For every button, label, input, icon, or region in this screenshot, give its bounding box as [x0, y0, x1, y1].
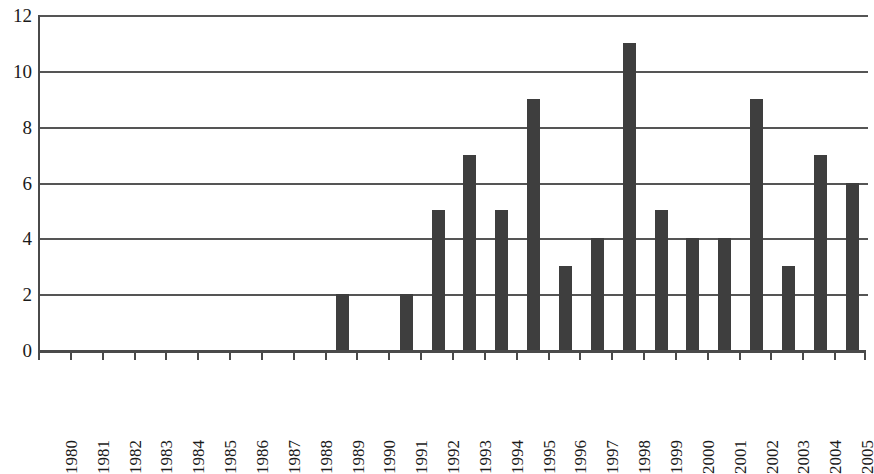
x-axis-tick-label: 2000: [700, 416, 718, 474]
x-axis-tick-label: 2004: [827, 416, 845, 474]
x-axis-tick: [388, 352, 390, 360]
x-axis-tick-label: 1991: [413, 416, 431, 474]
bar-2005: [846, 183, 859, 351]
y-axis-tick-label: 4: [2, 229, 32, 248]
x-axis-tick: [834, 352, 836, 360]
x-axis-tick-label: 1984: [190, 416, 208, 474]
x-axis-tick: [325, 352, 327, 360]
bar-1997: [591, 238, 604, 350]
x-axis-tick: [420, 352, 422, 360]
x-axis-tick: [675, 352, 677, 360]
x-axis-tick-label: 1980: [63, 416, 81, 474]
bar-1996: [559, 266, 572, 350]
x-axis-tick-label: 1987: [286, 416, 304, 474]
x-axis-tick-label: 1981: [95, 416, 113, 474]
x-axis-tick: [707, 352, 709, 360]
y-axis-tick-label: 10: [2, 61, 32, 80]
bar-2003: [782, 266, 795, 350]
x-axis-tick: [197, 352, 199, 360]
y-axis-tick-label: 12: [2, 6, 32, 25]
bars-series: [40, 15, 868, 350]
x-axis-tick-label: 1985: [222, 416, 240, 474]
x-axis-tick-label: 1992: [445, 416, 463, 474]
bar-1993: [463, 155, 476, 350]
x-axis-tick-label: 1993: [477, 416, 495, 474]
y-axis-tick-label: 6: [2, 173, 32, 192]
x-axis-tick: [484, 352, 486, 360]
y-axis-tick-label: 2: [2, 285, 32, 304]
x-axis-tick-label: 1990: [381, 416, 399, 474]
bar-1989: [336, 294, 349, 350]
x-axis-tick: [516, 352, 518, 360]
x-axis-tick-label: 2001: [732, 416, 750, 474]
x-axis-tick: [229, 352, 231, 360]
x-axis-tick: [548, 352, 550, 360]
y-axis-tick-label: 0: [2, 341, 32, 360]
x-axis-tick-label: 2002: [764, 416, 782, 474]
y-axis-tick-label: 8: [2, 117, 32, 136]
x-axis-tick-label: 1982: [127, 416, 145, 474]
bar-1992: [432, 210, 445, 350]
x-axis-tick: [643, 352, 645, 360]
x-axis-tick: [802, 352, 804, 360]
bar-1995: [527, 99, 540, 350]
x-axis-tick-label: 1994: [509, 416, 527, 474]
x-axis-tick-label: 2005: [859, 416, 874, 474]
x-axis-tick: [739, 352, 741, 360]
x-axis-tick-label: 1989: [350, 416, 368, 474]
bar-1999: [655, 210, 668, 350]
x-axis-tick: [356, 352, 358, 360]
x-axis-tick-label: 1997: [604, 416, 622, 474]
x-axis-tick-label: 1999: [668, 416, 686, 474]
x-axis-tick: [770, 352, 772, 360]
plot-area: [38, 15, 868, 350]
x-axis-ticks: [38, 352, 866, 360]
x-axis-tick-label: 1983: [158, 416, 176, 474]
bar-2002: [750, 99, 763, 350]
y-axis-tick-labels: 024681012: [0, 0, 32, 418]
x-axis-tick-labels: 1980198119821983198419851986198719881989…: [38, 360, 866, 418]
x-axis-tick-label: 1988: [318, 416, 336, 474]
x-axis-tick: [165, 352, 167, 360]
bar-1998: [623, 43, 636, 350]
x-axis-tick: [70, 352, 72, 360]
x-axis-tick-label: 1998: [636, 416, 654, 474]
x-axis-tick: [102, 352, 104, 360]
x-axis-tick-label: 1986: [254, 416, 272, 474]
x-axis-tick-label: 2003: [795, 416, 813, 474]
x-axis-tick: [579, 352, 581, 360]
x-axis-tick-label: 1995: [541, 416, 559, 474]
x-axis-tick: [38, 352, 40, 360]
bar-1991: [400, 294, 413, 350]
bar-2004: [814, 155, 827, 350]
x-axis-tick-label: 1996: [572, 416, 590, 474]
x-axis-tick: [452, 352, 454, 360]
x-axis-tick: [611, 352, 613, 360]
bar-1994: [495, 210, 508, 350]
bar-2000: [686, 238, 699, 350]
x-axis-tick: [864, 352, 866, 360]
x-axis-tick: [261, 352, 263, 360]
x-axis-tick: [134, 352, 136, 360]
x-axis-tick: [293, 352, 295, 360]
bar-2001: [718, 238, 731, 350]
